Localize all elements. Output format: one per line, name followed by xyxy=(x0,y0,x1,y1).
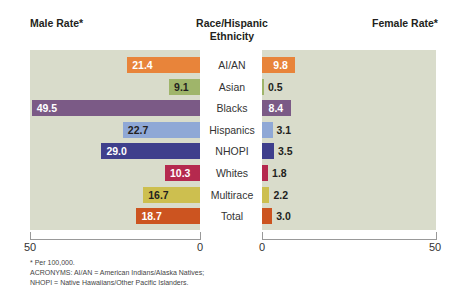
male-rate-header: Male Rate* xyxy=(30,17,83,29)
male-bar-value: 10.3 xyxy=(170,167,190,179)
female-rate-header: Female Rate* xyxy=(372,17,438,29)
male-bar-value: 21.4 xyxy=(132,59,152,71)
category-label: Total xyxy=(201,208,263,224)
female-bar xyxy=(262,122,273,138)
male-bar-value: 18.7 xyxy=(141,210,161,222)
male-chart-panel xyxy=(30,50,200,230)
male-bar-value: 49.5 xyxy=(37,102,57,114)
male-bar: 49.5 xyxy=(32,100,200,116)
race-ethnicity-header-line1: Race/Hispanic xyxy=(190,17,274,30)
female-bar-value: 3.5 xyxy=(278,143,293,159)
race-ethnicity-header-line2: Ethnicity xyxy=(190,30,274,43)
male-bar: 21.4 xyxy=(127,57,200,73)
male-bar: 18.7 xyxy=(136,208,200,224)
male-axis-line xyxy=(30,232,201,240)
female-bar-value: 3.1 xyxy=(277,122,292,138)
female-bar-value: 0.5 xyxy=(268,79,283,95)
female-axis-tick-0: 0 xyxy=(259,241,265,253)
male-bar: 9.1 xyxy=(169,79,200,95)
category-label: AI/AN xyxy=(201,57,263,73)
male-axis-tick-50: 50 xyxy=(24,241,36,253)
female-bar xyxy=(262,187,269,203)
male-bar-value: 9.1 xyxy=(174,81,189,93)
category-label: Blacks xyxy=(201,100,263,116)
male-bar: 16.7 xyxy=(143,187,200,203)
male-bar-value: 22.7 xyxy=(128,124,148,136)
female-bar xyxy=(262,143,274,159)
female-bar xyxy=(262,79,264,95)
category-label: Multirace xyxy=(201,187,263,203)
female-bar-value: 9.8 xyxy=(273,57,288,73)
female-chart-panel xyxy=(262,50,436,230)
female-axis-tick-50: 50 xyxy=(429,241,441,253)
footnote-acronyms-nhopi: NHOPI = Native Hawaiians/Other Pacific I… xyxy=(30,278,189,288)
category-label: Asian xyxy=(201,79,263,95)
female-bar-value: 8.4 xyxy=(269,100,284,116)
female-bar-value: 2.2 xyxy=(273,187,288,203)
footnote-acronyms-aian: ACRONYMS: AI/AN = American Indians/Alask… xyxy=(30,268,204,278)
male-bar: 22.7 xyxy=(123,122,200,138)
category-label: Hispanics xyxy=(201,122,263,138)
female-bar-value: 3.0 xyxy=(276,208,291,224)
male-bar-value: 29.0 xyxy=(106,145,126,157)
footnote-per-100000: * Per 100,000. xyxy=(30,258,75,268)
female-axis-line xyxy=(262,232,437,240)
race-ethnicity-header: Race/Hispanic Ethnicity xyxy=(190,17,274,43)
female-bar-value: 1.8 xyxy=(272,165,287,181)
category-label: Whites xyxy=(201,165,263,181)
female-bar xyxy=(262,165,268,181)
category-label: NHOPI xyxy=(201,143,263,159)
male-axis-tick-0: 0 xyxy=(197,241,203,253)
male-bar: 10.3 xyxy=(165,165,200,181)
female-bar xyxy=(262,208,272,224)
male-bar: 29.0 xyxy=(101,143,200,159)
male-bar-value: 16.7 xyxy=(148,189,168,201)
